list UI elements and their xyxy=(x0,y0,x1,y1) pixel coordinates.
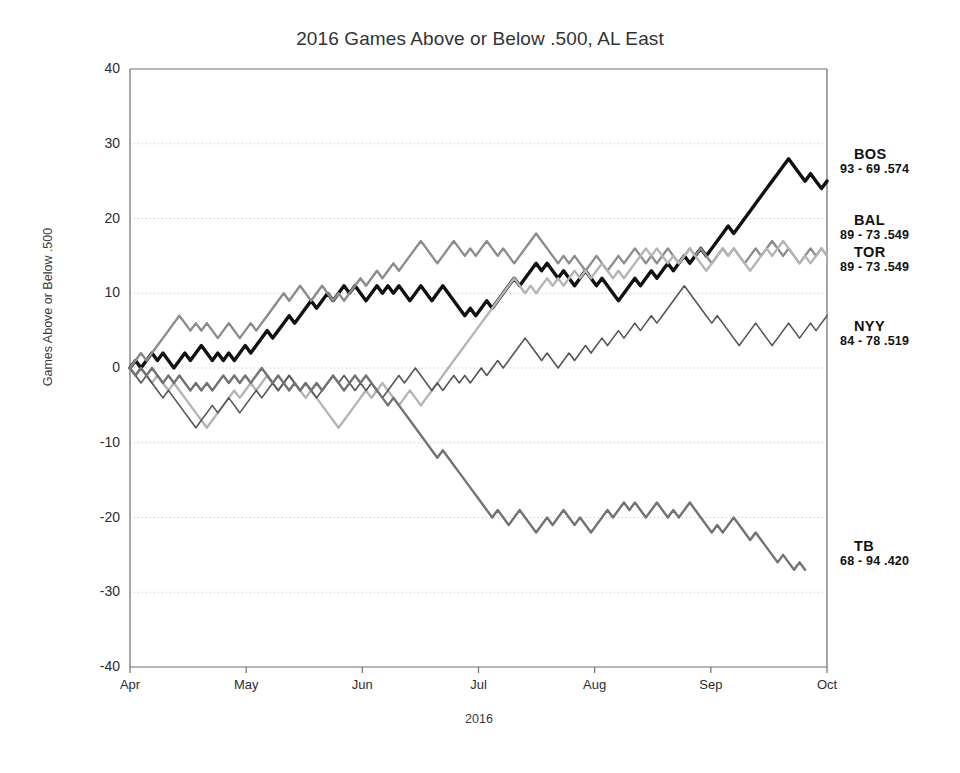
plot-area xyxy=(0,0,960,773)
series-line-nyy xyxy=(130,286,827,428)
y-tick-label: 20 xyxy=(76,210,120,226)
legend-team-record: 93 - 69 .574 xyxy=(840,162,958,176)
chart-figure: 2016 Games Above or Below .500, AL East … xyxy=(0,0,960,773)
y-tick-label: 10 xyxy=(76,284,120,300)
x-tick-label: Sep xyxy=(681,677,741,692)
legend-team-name: TB xyxy=(840,538,958,554)
legend-team-name: BOS xyxy=(840,146,958,162)
y-tick-label: -20 xyxy=(76,509,120,525)
legend-team-record: 89 - 73 .549 xyxy=(840,228,958,242)
legend-team-record: 68 - 94 .420 xyxy=(840,554,958,568)
x-tick-label: May xyxy=(216,677,276,692)
legend-team-name: NYY xyxy=(840,318,958,334)
legend-team-name: BAL xyxy=(840,212,958,228)
x-tick-label: Jul xyxy=(449,677,509,692)
series-line-bal xyxy=(130,233,827,368)
y-tick-label: 30 xyxy=(76,135,120,151)
legend-entry-bal: BAL89 - 73 .549 xyxy=(840,212,958,242)
y-tick-label: -30 xyxy=(76,583,120,599)
legend-entry-bos: BOS93 - 69 .574 xyxy=(840,146,958,176)
legend-team-record: 84 - 78 .519 xyxy=(840,334,958,348)
series-line-tor xyxy=(130,241,827,428)
legend-team-record: 89 - 73 .549 xyxy=(840,260,958,274)
x-tick-label: Aug xyxy=(565,677,625,692)
series-line-bos xyxy=(130,159,827,368)
series-line-tb xyxy=(130,368,805,570)
y-axis-label: Games Above or Below .500 xyxy=(41,197,55,417)
x-tick-label: Jun xyxy=(332,677,392,692)
y-tick-label: 0 xyxy=(76,359,120,375)
x-tick-label: Oct xyxy=(797,677,857,692)
y-tick-label: -10 xyxy=(76,434,120,450)
legend-team-name: TOR xyxy=(840,244,958,260)
legend-entry-nyy: NYY84 - 78 .519 xyxy=(840,318,958,348)
y-tick-label: 40 xyxy=(76,60,120,76)
chart-title: 2016 Games Above or Below .500, AL East xyxy=(0,28,960,50)
x-tick-label: Apr xyxy=(100,677,160,692)
legend-entry-tor: TOR89 - 73 .549 xyxy=(840,244,958,274)
y-tick-label: -40 xyxy=(76,658,120,674)
legend-entry-tb: TB68 - 94 .420 xyxy=(840,538,958,568)
x-axis-label: 2016 xyxy=(130,712,828,726)
